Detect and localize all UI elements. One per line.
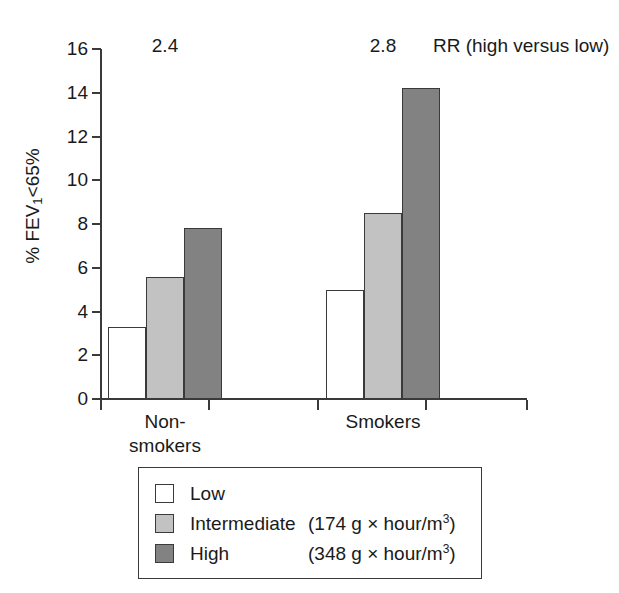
legend-item-high: High(348 g × hour/m3) xyxy=(155,538,467,568)
legend-units-close-high: ) xyxy=(449,543,455,564)
bar-smokers-low xyxy=(326,290,364,399)
category-label-line: Non- xyxy=(85,410,245,434)
legend-label-high: High(348 g × hour/m3) xyxy=(190,544,456,563)
bar-non-smokers-intermediate xyxy=(146,277,184,400)
bar-smokers-intermediate xyxy=(364,213,402,399)
bar-chart-figure: % FEV1<65% 1614121086420 Non-smokersSmok… xyxy=(0,0,619,593)
bar-non-smokers-low xyxy=(108,327,146,399)
legend-units-high: (348 g × hour/m xyxy=(308,544,443,563)
legend-swatch-high xyxy=(155,544,174,563)
legend-name-low: Low xyxy=(190,484,308,503)
legend-units-intermediate: (174 g × hour/m xyxy=(308,514,443,533)
category-label-line: smokers xyxy=(85,434,245,458)
x-tick-mark xyxy=(208,400,210,410)
x-tick-mark xyxy=(526,400,528,410)
rr-value-smokers: 2.8 xyxy=(333,36,433,55)
category-label-non-smokers: Non-smokers xyxy=(85,410,245,458)
category-label-line: Smokers xyxy=(303,410,463,434)
bars-container xyxy=(0,0,619,399)
x-tick-mark xyxy=(100,400,102,410)
legend-swatch-intermediate xyxy=(155,514,174,533)
bar-smokers-high xyxy=(402,88,440,399)
x-tick-mark xyxy=(425,400,427,410)
legend-swatch-low xyxy=(155,484,174,503)
legend-box: Low Intermediate(174 g × hour/m3) High(3… xyxy=(138,467,482,579)
legend-item-low: Low xyxy=(155,478,467,508)
bar-non-smokers-high xyxy=(184,228,222,399)
legend-label-intermediate: Intermediate(174 g × hour/m3) xyxy=(190,514,456,533)
legend-label-low: Low xyxy=(190,484,308,503)
category-label-smokers: Smokers xyxy=(303,410,463,434)
rr-value-non-smokers: 2.4 xyxy=(115,36,215,55)
x-tick-mark xyxy=(317,400,319,410)
legend-units-close-intermediate: ) xyxy=(449,513,455,534)
legend-name-high: High xyxy=(190,544,308,563)
legend-name-intermediate: Intermediate xyxy=(190,514,308,533)
rr-caption: RR (high versus low) xyxy=(433,36,609,55)
legend-item-intermediate: Intermediate(174 g × hour/m3) xyxy=(155,508,467,538)
